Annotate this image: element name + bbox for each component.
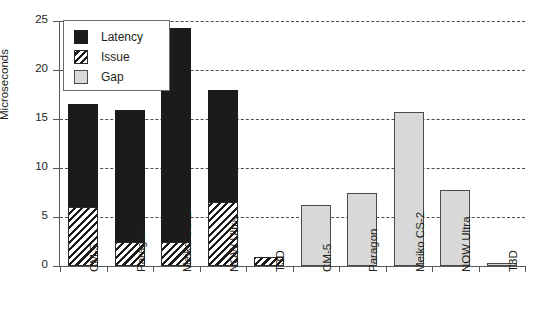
x-tick-mark-4 <box>246 266 247 272</box>
gap-swatch-icon <box>74 70 88 84</box>
x-tick-mark-9 <box>479 266 480 272</box>
y-tick-label-20: 20 <box>22 62 48 74</box>
chart-figure: Microseconds 0510152025 CM-5ParagonMeiko… <box>0 0 541 333</box>
x-tick-mark-8 <box>432 266 433 272</box>
x-axis-label-4: T3D <box>274 250 286 272</box>
legend-label-gap: Gap <box>101 70 124 84</box>
x-axis-label-1: Paragon <box>135 229 147 272</box>
bar-4 <box>254 21 284 266</box>
bar-segment-latency-3 <box>208 90 238 203</box>
y-tick-label-15: 15 <box>22 111 48 123</box>
x-axis-label-2: Meiko CS-2 <box>181 212 193 272</box>
x-axis-label-8: NOW Ultra <box>460 216 472 272</box>
x-axis-label-5: CM-5 <box>321 244 333 272</box>
bar-segment-latency-0 <box>68 104 98 207</box>
issue-swatch-icon <box>74 50 88 64</box>
x-axis-label-0: CM-5 <box>88 244 100 272</box>
bar-5 <box>301 21 331 266</box>
chart-legend: Latency Issue Gap <box>63 20 170 91</box>
x-tick-mark-5 <box>293 266 294 272</box>
x-tick-mark-6 <box>339 266 340 272</box>
x-tick-mark-end <box>525 266 526 272</box>
x-tick-mark-1 <box>107 266 108 272</box>
x-tick-mark-2 <box>153 266 154 272</box>
latency-swatch-icon <box>74 30 88 44</box>
x-tick-mark-3 <box>200 266 201 272</box>
x-axis-label-7: Meiko CS-2 <box>414 212 426 272</box>
legend-item-issue: Issue <box>74 49 130 65</box>
x-axis-label-6: Paragon <box>367 229 379 272</box>
x-tick-mark-7 <box>386 266 387 272</box>
bar-segment-latency-1 <box>115 110 145 241</box>
x-tick-mark-0 <box>60 266 61 272</box>
x-axis-label-3: NOW Ultra <box>228 216 240 272</box>
y-tick-label-5: 5 <box>22 209 48 221</box>
legend-label-issue: Issue <box>101 50 130 64</box>
y-tick-label-25: 25 <box>22 13 48 25</box>
y-tick-label-0: 0 <box>22 258 48 270</box>
bar-9 <box>487 21 517 266</box>
y-axis-label: Microseconds <box>0 0 10 120</box>
legend-item-gap: Gap <box>74 69 124 85</box>
legend-label-latency: Latency <box>101 30 143 44</box>
y-tick-label-10: 10 <box>22 160 48 172</box>
legend-item-latency: Latency <box>74 29 143 45</box>
x-axis-label-9: T3D <box>507 250 519 272</box>
